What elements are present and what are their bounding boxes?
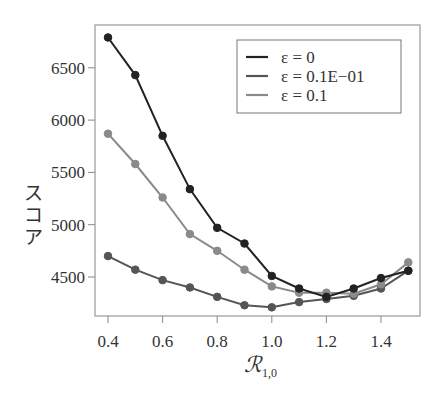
x-tick-label: 1.0 <box>261 332 282 351</box>
legend: ε = 0ε = 0.1E−01ε = 0.1 <box>237 40 401 113</box>
series-2 <box>104 130 412 298</box>
x-axis: 0.40.60.81.01.21.4 <box>97 316 392 351</box>
y-tick-label: 5500 <box>51 163 85 182</box>
data-point <box>377 274 385 282</box>
data-point <box>241 240 249 248</box>
x-axis-label: ℛ1,0 <box>244 352 277 381</box>
data-point <box>132 160 140 168</box>
data-point <box>350 285 358 293</box>
y-tick-label: 4500 <box>51 268 85 287</box>
data-point <box>213 247 221 255</box>
data-point <box>186 284 194 292</box>
x-tick-label: 0.8 <box>207 332 228 351</box>
data-point <box>323 293 331 301</box>
x-tick-label: 0.4 <box>97 332 119 351</box>
data-point <box>405 259 413 267</box>
data-point <box>213 293 221 301</box>
legend-label: ε = 0.1 <box>281 86 327 105</box>
x-axis-label-main: ℛ <box>244 352 262 377</box>
data-point <box>295 298 303 306</box>
x-axis-label-sub: 1,0 <box>262 366 277 380</box>
data-point <box>268 283 276 291</box>
x-tick-label: 0.6 <box>152 332 173 351</box>
data-point <box>159 194 167 202</box>
data-point <box>132 266 140 274</box>
data-point <box>186 230 194 238</box>
x-tick-label: 1.2 <box>316 332 337 351</box>
y-axis-label: スコア <box>22 182 44 248</box>
data-point <box>241 301 249 309</box>
y-axis: 45005000550060006500 <box>51 59 95 287</box>
data-point <box>268 304 276 312</box>
y-tick-label: 5000 <box>51 216 85 235</box>
data-point <box>104 252 112 260</box>
y-tick-label: 6000 <box>51 111 85 130</box>
data-point <box>186 185 194 193</box>
x-tick-label: 1.4 <box>370 332 392 351</box>
y-tick-label: 6500 <box>51 59 85 78</box>
data-point <box>241 266 249 274</box>
line-chart: 45005000550060006500 0.40.60.81.01.21.4 … <box>0 0 445 394</box>
data-point <box>104 34 112 42</box>
data-point <box>159 132 167 140</box>
legend-label: ε = 0.1E−01 <box>281 67 364 86</box>
data-point <box>295 285 303 293</box>
data-point <box>213 224 221 232</box>
data-point <box>159 276 167 284</box>
data-point <box>132 71 140 79</box>
data-point <box>405 267 413 275</box>
data-point <box>104 130 112 138</box>
legend-label: ε = 0 <box>281 48 315 67</box>
data-point <box>268 272 276 280</box>
